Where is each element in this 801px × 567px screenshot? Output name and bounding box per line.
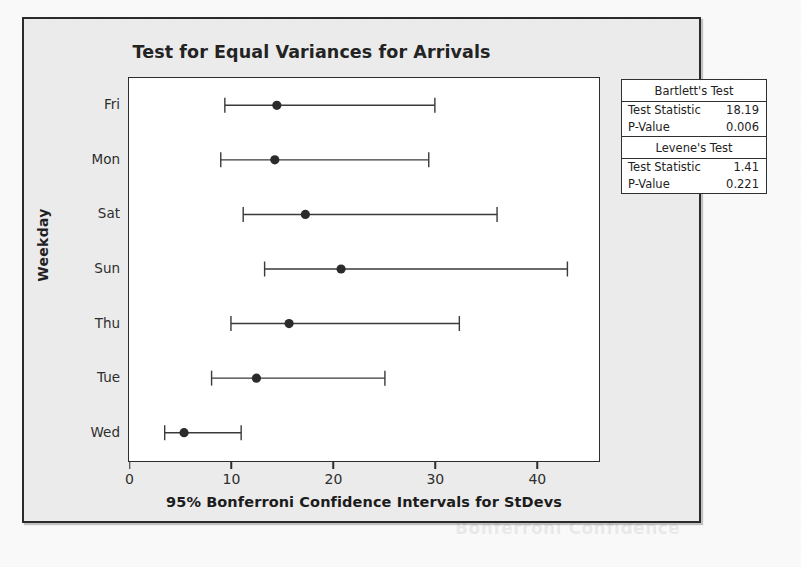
y-axis-tick-label-sun: Sun [94, 260, 120, 276]
y-axis-tick-label-mon: Mon [92, 151, 120, 167]
levene-test-section: Levene's Test Test Statistic 1.41 P-Valu… [622, 136, 766, 193]
bartlett-test-heading: Bartlett's Test [622, 80, 766, 101]
bartlett-p-value-value: 0.006 [726, 120, 759, 135]
levene-p-value-label: P-Value [628, 177, 670, 192]
confidence-interval-fri [225, 98, 435, 113]
levene-test-statistic-label: Test Statistic [628, 160, 701, 175]
point-estimate-marker [252, 374, 261, 383]
x-axis-tick-label-40: 40 [528, 471, 546, 487]
scanned-page: Weekday Bonferroni Confidence Test for E… [0, 0, 801, 567]
y-axis-tick-label-wed: Wed [91, 424, 120, 440]
bartlett-test-statistic-row: Test Statistic 18.19 [622, 102, 766, 119]
bartlett-test-statistic-value: 18.19 [726, 103, 759, 118]
x-axis-title: 95% Bonferroni Confidence Intervals for … [128, 494, 600, 510]
levene-test-statistic-value: 1.41 [733, 160, 759, 175]
point-estimate-marker [336, 264, 345, 273]
x-axis-tick-label-20: 20 [324, 471, 342, 487]
plot-area [128, 77, 600, 462]
levene-test-heading: Levene's Test [622, 137, 766, 158]
confidence-interval-wed [165, 425, 241, 440]
y-axis-title: Weekday [35, 185, 51, 305]
confidence-interval-tue [212, 371, 385, 386]
point-estimate-marker [179, 428, 188, 437]
y-axis-tick-label-tue: Tue [97, 369, 120, 385]
levene-p-value-value: 0.221 [726, 177, 759, 192]
point-estimate-marker [270, 155, 279, 164]
confidence-interval-thu [231, 316, 459, 331]
confidence-interval-sat [243, 207, 497, 222]
confidence-interval-sun [265, 262, 568, 277]
x-axis-tick-mark-10 [231, 462, 233, 469]
x-axis: 95% Bonferroni Confidence Intervals for … [128, 462, 600, 522]
chart-figure: Test for Equal Variances for Arrivals We… [22, 17, 701, 523]
x-axis-tick-mark-20 [333, 462, 335, 469]
point-estimate-marker [301, 210, 310, 219]
y-axis-tick-label-fri: Fri [104, 96, 120, 112]
y-axis-tick-label-thu: Thu [95, 315, 120, 331]
confidence-interval-mon [221, 152, 429, 167]
statistical-tests-box: Bartlett's Test Test Statistic 18.19 P-V… [621, 79, 767, 194]
x-axis-tick-label-10: 10 [223, 471, 241, 487]
x-axis-tick-mark-0 [129, 462, 131, 469]
chart-title: Test for Equal Variances for Arrivals [24, 42, 599, 62]
bartlett-test-statistic-label: Test Statistic [628, 103, 701, 118]
bartlett-p-value-row: P-Value 0.006 [622, 119, 766, 136]
x-axis-tick-label-30: 30 [426, 471, 444, 487]
levene-p-value-row: P-Value 0.221 [622, 176, 766, 193]
x-axis-tick-mark-30 [435, 462, 437, 469]
interval-plot-data-layer [129, 78, 598, 460]
x-axis-tick-mark-40 [537, 462, 539, 469]
y-axis-tick-labels: FriMonSatSunThuTueWed [54, 77, 120, 462]
bartlett-test-section: Bartlett's Test Test Statistic 18.19 P-V… [622, 80, 766, 136]
point-estimate-marker [272, 101, 281, 110]
levene-test-statistic-row: Test Statistic 1.41 [622, 159, 766, 176]
bartlett-p-value-label: P-Value [628, 120, 670, 135]
y-axis-tick-label-sat: Sat [98, 205, 120, 221]
point-estimate-marker [284, 319, 293, 328]
x-axis-tick-label-0: 0 [125, 471, 134, 487]
